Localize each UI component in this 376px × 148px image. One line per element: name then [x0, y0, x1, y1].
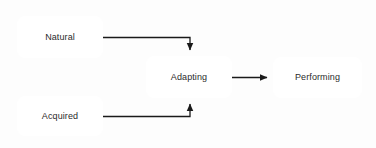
node-performing[interactable]: Performing [273, 57, 362, 98]
node-natural-label: Natural [45, 33, 75, 42]
flowchart-diagram: Natural Acquired Adapting Performing [0, 0, 376, 148]
node-adapting[interactable]: Adapting [146, 56, 232, 98]
node-performing-label: Performing [295, 73, 340, 82]
node-natural[interactable]: Natural [17, 16, 103, 58]
node-acquired-label: Acquired [42, 112, 78, 121]
edge-natural-to-adapting [103, 38, 190, 51]
node-adapting-label: Adapting [171, 73, 207, 82]
node-acquired[interactable]: Acquired [17, 96, 103, 136]
edge-acquired-to-adapting [103, 104, 190, 117]
